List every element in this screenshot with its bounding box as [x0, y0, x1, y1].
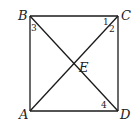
- vertex-label-d: D: [119, 107, 131, 121]
- vertex-label-a: A: [18, 107, 28, 121]
- angle-label-2: 2: [109, 24, 115, 34]
- angle-label-1: 1: [103, 17, 109, 27]
- vertex-label-e: E: [78, 60, 89, 75]
- vertex-label-c: C: [121, 8, 131, 23]
- vertex-label-b: B: [17, 8, 28, 23]
- geometry-diagram: B C A D E 1 2 3 4: [0, 0, 138, 121]
- angle-label-3: 3: [31, 23, 37, 33]
- angle-label-4: 4: [101, 100, 107, 110]
